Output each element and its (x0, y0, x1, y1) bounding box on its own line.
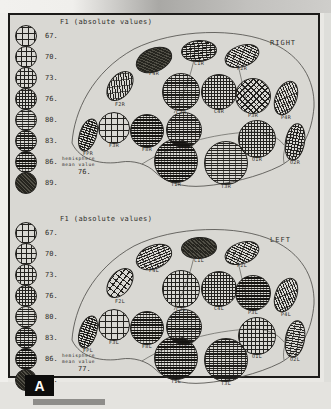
photo-margin-right (324, 13, 331, 382)
electrode-label: P2R (214, 65, 270, 71)
electrode-label: F2L (99, 298, 141, 304)
mean-caption: hemisphere mean value (62, 353, 95, 364)
electrode-disc (204, 141, 248, 185)
electrode-region: T1L (154, 336, 198, 380)
electrode-label: T3R (194, 183, 258, 189)
electrode-region: P2R (224, 45, 260, 67)
electrode-disc (154, 139, 198, 183)
electrode-region: C4L (201, 271, 237, 307)
electrode-disc (201, 74, 237, 110)
electrode-disc (282, 319, 308, 360)
electrode-disc (162, 270, 200, 308)
figure-frame: F1 (absolute values) RIGHT 67. 70. 73. 7… (8, 13, 320, 378)
electrode-region: T3R (204, 141, 248, 185)
electrode-region: P3R (235, 78, 271, 114)
electrode-label: F2R (99, 101, 141, 107)
electrode-disc (282, 122, 308, 163)
electrode-region: C1R (181, 40, 217, 62)
electrode-label: O2R (275, 159, 315, 165)
electrode-region: P3L (235, 275, 271, 311)
electrode-region: C2R (162, 73, 200, 111)
electrode-disc (98, 309, 130, 341)
electrode-region: P2L (224, 242, 260, 264)
panel-right-hemisphere: F1 (absolute values) RIGHT 67. 70. 73. 7… (12, 17, 318, 201)
hemisphere-mean-value: 76. (78, 168, 91, 176)
mean-caption: hemisphere mean value (62, 156, 95, 167)
electrode-label: O2L (275, 356, 315, 362)
electrode-disc (235, 78, 271, 114)
electrode-disc (235, 275, 271, 311)
scanned-figure: F1 (absolute values) RIGHT 67. 70. 73. 7… (0, 0, 331, 409)
panel-left-hemisphere: F1 (absolute values) LEFT 67. 70. 73. 76… (12, 214, 318, 398)
electrode-label: P2L (214, 262, 270, 268)
electrode-region: O2L (285, 320, 305, 358)
electrode-label: T3L (194, 380, 258, 386)
electrode-region: C4R (201, 74, 237, 110)
photo-margin-left (0, 13, 8, 382)
electrode-region: O2R (285, 123, 305, 161)
electrode-region: T1R (154, 139, 198, 183)
electrode-region: F4L (135, 245, 173, 269)
electrode-disc (98, 112, 130, 144)
panel-letter-badge: A (25, 375, 54, 396)
electrode-region: T3L (204, 338, 248, 382)
electrode-disc (162, 73, 200, 111)
electrode-region: C2L (162, 270, 200, 308)
electrode-region: F3L (98, 309, 130, 341)
electrode-disc (204, 338, 248, 382)
electrode-region: C1L (181, 237, 217, 259)
electrode-region: P4R (275, 80, 297, 116)
scale-bar (33, 399, 105, 405)
electrode-disc (154, 336, 198, 380)
electrode-region: P4L (275, 277, 297, 313)
electrode-region: F3R (98, 112, 130, 144)
photo-margin-top (0, 0, 331, 13)
hemisphere-mean-value: 77. (78, 365, 91, 373)
electrode-disc (201, 271, 237, 307)
electrode-region: F4R (135, 48, 173, 72)
